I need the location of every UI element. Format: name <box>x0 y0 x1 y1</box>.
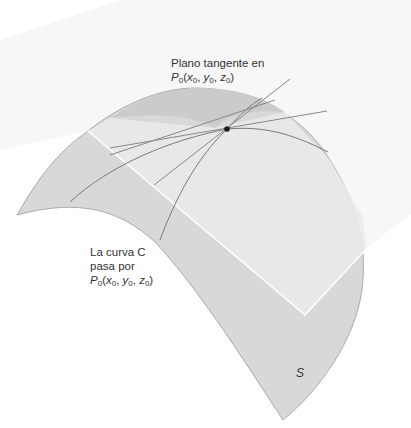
curve-c-label: La curva C pasa por P0(x0, y0, z0) <box>90 245 153 287</box>
surface-s-label: S <box>296 366 304 380</box>
tangent-plane-label-point: P0(x0, y0, z0) <box>171 70 264 84</box>
tangent-plane-label: Plano tangente en P0(x0, y0, z0) <box>171 56 264 84</box>
curve-c-label-point: P0(x0, y0, z0) <box>90 273 153 287</box>
curve-c-label-line2: pasa por <box>90 259 153 273</box>
curve-c-label-line1: La curva C <box>90 245 153 259</box>
tangent-plane-label-line1: Plano tangente en <box>171 56 264 70</box>
point-p0 <box>224 126 230 132</box>
